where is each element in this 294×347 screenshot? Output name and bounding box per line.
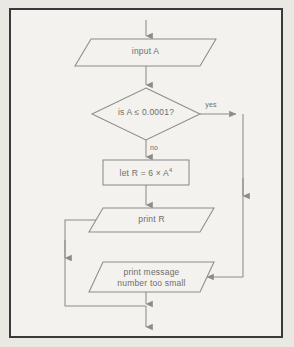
print-r-shape (89, 208, 214, 232)
flowchart-canvas (0, 0, 294, 347)
figure-page: input A is A ≤ 0.0001? yes no let R = 6 … (0, 0, 294, 347)
decision-shape (92, 88, 200, 140)
process-shape (103, 160, 189, 185)
print-message-shape (89, 262, 214, 292)
edge-printr-loop-left (65, 220, 146, 306)
input-a-shape (75, 39, 216, 66)
